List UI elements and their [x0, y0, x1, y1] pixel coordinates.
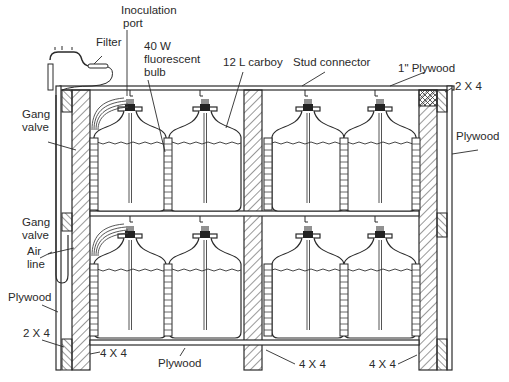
label-line: Inoculation: [121, 4, 177, 17]
label-top-plywood: 1" Plywood: [398, 62, 455, 75]
label-bottom-mid-4x4: 4 X 4: [299, 358, 326, 371]
label-gang-valve-top: Gang valve: [22, 108, 50, 134]
label-line: fluorescent: [144, 53, 200, 66]
label-top-right-2x4: 2 X 4: [455, 80, 482, 93]
label-carboy: 12 L carboy: [223, 56, 283, 69]
label-line: Gang: [22, 216, 50, 229]
label-gang-valve-bottom: Gang valve: [22, 216, 50, 242]
label-right-plywood: Plywood: [456, 130, 499, 143]
label-line: valve: [22, 121, 50, 134]
label-bottom-right-4x4: 4 X 4: [369, 358, 396, 371]
label-filter: Filter: [96, 36, 122, 49]
label-line: bulb: [144, 66, 200, 79]
label-line: line: [27, 258, 45, 271]
label-line: Air: [27, 245, 45, 258]
label-left-plywood: Plywood: [8, 291, 51, 304]
label-line: port: [121, 17, 177, 30]
label-line: 40 W: [144, 40, 200, 53]
label-stud-connector: Stud connector: [293, 56, 370, 69]
label-line: valve: [22, 229, 50, 242]
label-line: Gang: [22, 108, 50, 121]
label-bulb: 40 W fluorescent bulb: [144, 40, 200, 79]
label-inoculation-port: Inoculation port: [121, 4, 177, 30]
label-bottom-left-4x4: 4 X 4: [100, 347, 127, 360]
label-bottom-plywood: Plywood: [158, 357, 201, 370]
label-bottom-left-2x4: 2 X 4: [23, 327, 50, 340]
label-air-line: Air line: [27, 245, 45, 271]
